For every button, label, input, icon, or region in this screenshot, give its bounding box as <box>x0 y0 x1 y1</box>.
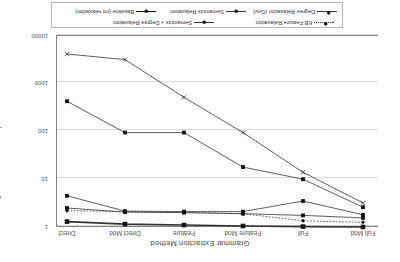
legend-item-baseline-no-relaxation[interactable]: Baseline (no relaxation) <box>75 9 156 15</box>
chart-figure: Grammar Extraction Method Full Mod Full … <box>0 0 400 262</box>
series-3 <box>65 209 365 225</box>
legend-item-semantics-relaxation[interactable]: Semantics Relaxation <box>170 9 246 15</box>
chart-legend: Semantics + Degree Relaxation KB Feature… <box>51 2 343 28</box>
legend-row-0: Semantics + Degree Relaxation KB Feature… <box>52 15 342 26</box>
chart-screenshot: Grammar Extraction Method Full Mod Full … <box>0 0 400 262</box>
legend-line-icon <box>194 23 214 24</box>
legend-label: Degree Relaxation (Gov) <box>253 9 315 15</box>
legend-item-semantics-degree-relaxation[interactable]: Semantics + Degree Relaxation <box>113 20 214 26</box>
legend-row-1: Baseline (no relaxation) Semantics Relax… <box>52 4 342 15</box>
chart-series-layer <box>0 0 400 262</box>
legend-label: Semantics Relaxation <box>170 9 224 15</box>
legend-line-icon <box>314 23 334 24</box>
legend-item-kb-feature-relaxation[interactable]: KB Feature Relaxation <box>256 20 334 26</box>
legend-line-icon <box>226 12 246 13</box>
legend-item-degree-relaxation-gov[interactable]: Degree Relaxation (Gov) <box>253 9 337 15</box>
legend-label: Semantics + Degree Relaxation <box>113 20 192 26</box>
series-5 <box>65 52 365 205</box>
legend-line-icon <box>317 12 337 13</box>
legend-line-icon <box>136 12 156 13</box>
legend-label: KB Feature Relaxation <box>256 20 312 26</box>
series-0 <box>65 219 366 229</box>
legend-label: Baseline (no relaxation) <box>75 9 134 15</box>
